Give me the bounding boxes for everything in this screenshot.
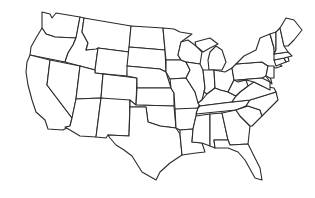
- us-states-outline-map: [0, 0, 315, 198]
- state-mi-part-2: [208, 46, 226, 70]
- state-mt: [82, 18, 131, 52]
- state-nm: [96, 98, 130, 138]
- state-ks: [136, 88, 174, 106]
- state-nd: [129, 26, 165, 50]
- state-nj: [266, 66, 274, 78]
- map-canvas: [0, 0, 315, 198]
- state-pa: [232, 62, 268, 80]
- state-me: [280, 18, 302, 46]
- state-wy: [95, 48, 129, 76]
- state-fl: [214, 140, 262, 180]
